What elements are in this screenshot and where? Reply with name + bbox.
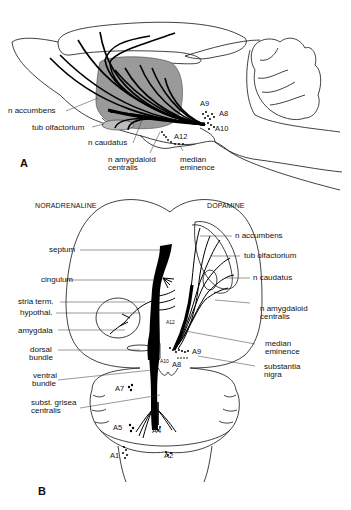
nucleus-b-a5: A5: [113, 424, 122, 432]
label-a-n-amygdaloid-2: centralis: [108, 164, 138, 172]
label-b-ventral-2: bundle: [32, 380, 56, 388]
nucleus-a-a12: A12: [174, 133, 187, 141]
panel-letter-b: B: [38, 485, 46, 497]
panel-letter-a: A: [20, 157, 28, 169]
label-b-n-accumbens: n accumbens: [235, 232, 283, 240]
nucleus-a-a9: A9: [200, 100, 209, 108]
nucleus-b-a8: A8: [172, 361, 181, 369]
figure-canvas: n accumbens tub olfactorium n caudatus n…: [0, 0, 351, 510]
label-b-hypothal: hypothal.: [20, 309, 52, 317]
label-b-dorsal-2: bundle: [29, 354, 53, 362]
nucleus-a-a10: A10: [215, 125, 228, 133]
label-a-tub-olfactorium: tub olfactorium: [32, 124, 84, 132]
label-a-n-accumbens: n accumbens: [8, 107, 56, 115]
label-b-median-2: eminence: [265, 348, 300, 356]
nucleus-b-a10: A10: [160, 357, 169, 365]
label-b-stria-term: stria term.: [18, 298, 54, 306]
label-b-substantia-2: nigra: [264, 371, 282, 379]
label-b-cingulum: cingulum: [41, 276, 73, 284]
nucleus-a-a8: A8: [219, 110, 228, 118]
label-b-amygdala: amygdala: [18, 327, 53, 335]
label-b-tub-olfactorium: tub olfactorium: [244, 252, 296, 260]
brain-drawing: [0, 0, 351, 510]
label-b-subst-2: centralis: [31, 407, 61, 415]
nucleus-b-a6: A6: [150, 409, 159, 417]
nucleus-b-a2: A2: [164, 452, 173, 460]
nucleus-b-a4: A4: [152, 427, 161, 435]
nucleus-b-a12: A12: [166, 318, 175, 326]
label-b-n-caudatus: n caudatus: [253, 274, 292, 282]
nucleus-b-a1: A1: [110, 452, 119, 460]
nucleus-b-a9: A9: [192, 348, 201, 356]
label-a-median-2: eminence: [180, 164, 215, 172]
label-b-n-amygdaloid-2: centralis: [260, 313, 290, 321]
header-dopamine: DOPAMINE: [207, 202, 245, 209]
label-b-septum: septum: [49, 246, 75, 254]
nucleus-b-a7: A7: [115, 385, 124, 393]
label-a-n-caudatus: n caudatus: [88, 139, 127, 147]
header-noradrenaline: NORADRENALINE: [35, 202, 97, 209]
